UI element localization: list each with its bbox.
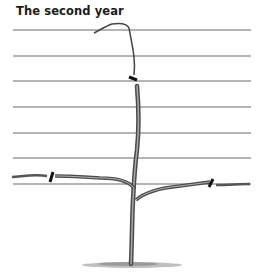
left-arm-tip <box>12 175 47 177</box>
vine-illustration <box>0 0 257 275</box>
cut-mark-top <box>129 77 137 80</box>
upper-cane <box>94 23 135 75</box>
cut-mark-right <box>209 179 213 187</box>
cut-mark-left <box>50 172 53 182</box>
right-arm <box>136 182 210 200</box>
right-arm-tip <box>216 184 250 185</box>
trellis-wires <box>13 30 251 184</box>
